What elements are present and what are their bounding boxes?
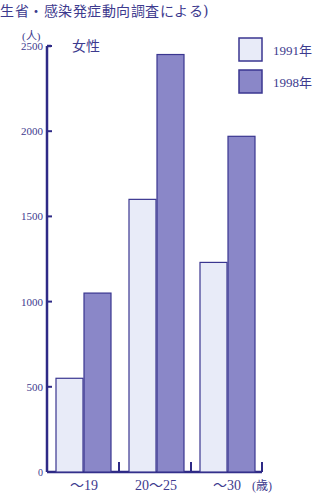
y-tick-label: 1000: [21, 296, 44, 308]
y-tick-label: 0: [38, 467, 43, 478]
y-tick-label: 1500: [21, 210, 44, 222]
legend-swatch: [239, 38, 262, 61]
bar-1991年-〜19: [56, 378, 83, 472]
y-axis-unit: (人): [22, 30, 41, 43]
x-tick-label: 〜19: [70, 478, 98, 493]
bar-chart: 05001000150020002500(人)女性〜1920〜25〜30(歳)1…: [0, 0, 327, 497]
x-tick-label: 〜30: [213, 478, 241, 493]
x-tick-label: 20〜25: [135, 478, 177, 493]
y-tick-label: 2000: [21, 125, 44, 137]
bar-1991年-〜30: [200, 262, 227, 472]
legend-swatch: [239, 70, 262, 93]
bar-1998年-20〜25: [157, 55, 184, 472]
x-axis-unit: (歳): [252, 479, 272, 493]
bar-1998年-〜30: [228, 136, 255, 472]
y-tick-label: 500: [27, 381, 44, 393]
legend-label: 1991年: [273, 43, 312, 58]
legend-label: 1998年: [273, 75, 312, 90]
bar-1998年-〜19: [84, 293, 111, 472]
chart-title: 女性: [72, 38, 100, 54]
bar-1991年-20〜25: [129, 199, 156, 472]
